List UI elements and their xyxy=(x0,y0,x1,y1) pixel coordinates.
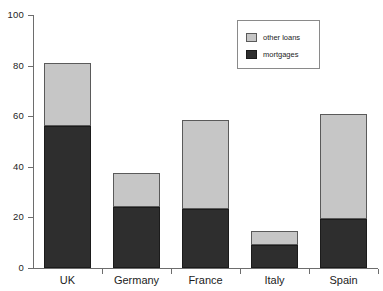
x-axis-tick-mark xyxy=(378,269,379,274)
y-axis-tick-mark xyxy=(28,268,34,269)
bar-segment-mortgages xyxy=(320,219,367,268)
stacked-bar-chart: 100806040200 UKGermanyFranceItalySpain o… xyxy=(0,0,383,291)
y-axis-tick-label: 100 xyxy=(8,9,24,20)
bar-segment-other-loans xyxy=(44,63,91,126)
x-axis-label-italy: Italy xyxy=(240,274,309,286)
y-axis-tick-label: 80 xyxy=(13,60,24,71)
legend-swatch-icon-mortgages xyxy=(246,50,257,59)
bar-segment-other-loans xyxy=(182,120,229,209)
plot-area xyxy=(33,15,378,268)
bar-segment-mortgages xyxy=(251,245,298,268)
x-axis-line xyxy=(33,268,378,269)
bar-segment-mortgages xyxy=(113,207,160,268)
y-axis-tick-label: 20 xyxy=(13,211,24,222)
bar-segment-other-loans xyxy=(251,231,298,245)
bar-segment-other-loans xyxy=(113,173,160,207)
legend-item-mortgages: mortgages xyxy=(246,50,298,59)
y-axis-tick: 0 xyxy=(28,268,34,269)
bar-spain xyxy=(320,114,367,268)
bar-italy xyxy=(251,231,298,268)
bar-france xyxy=(182,120,229,268)
y-axis-tick-label: 0 xyxy=(19,262,24,273)
legend-label-other-loans: other loans xyxy=(263,33,300,42)
legend-swatch-icon-other-loans xyxy=(246,33,257,42)
bar-uk xyxy=(44,63,91,268)
bar-segment-mortgages xyxy=(44,126,91,268)
x-axis-label-germany: Germany xyxy=(102,274,171,286)
legend-item-other-loans: other loans xyxy=(246,33,300,42)
y-axis-tick-label: 60 xyxy=(13,110,24,121)
x-axis-label-france: France xyxy=(171,274,240,286)
legend-label-mortgages: mortgages xyxy=(263,50,298,59)
y-axis-tick-label: 40 xyxy=(13,161,24,172)
bar-segment-other-loans xyxy=(320,114,367,219)
x-axis-label-uk: UK xyxy=(33,274,102,286)
bar-germany xyxy=(113,173,160,268)
bar-segment-mortgages xyxy=(182,209,229,268)
x-axis-label-spain: Spain xyxy=(309,274,378,286)
chart-legend: other loans mortgages xyxy=(237,20,320,69)
